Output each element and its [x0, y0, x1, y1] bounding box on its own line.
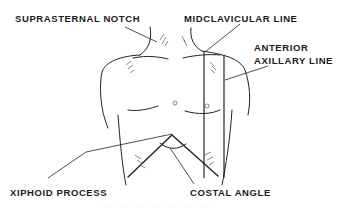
neck-left-outline: [140, 27, 151, 55]
leader-xiphoid-process: [48, 134, 172, 178]
label-xiphoid-process: XIPHOID PROCESS: [10, 187, 107, 198]
left-pectoral: [128, 106, 158, 111]
label-anterior-axillary-line-2: AXILLARY LINE: [254, 55, 333, 66]
caption-fragment: . . . . . . . . . . . . . . . . . . . . …: [100, 203, 215, 209]
left-flank: [118, 115, 126, 185]
right-costal-margin: [172, 135, 218, 176]
leader-midclavicular-line: [205, 24, 240, 52]
right-clavicle: [183, 55, 220, 58]
chest-illustration: [0, 0, 349, 211]
neck-right-outline: [191, 28, 202, 51]
label-costal-angle: COSTAL ANGLE: [190, 187, 271, 198]
left-shoulder-outline: [100, 55, 140, 128]
leader-anterior-axillary-line: [225, 66, 268, 80]
label-midclavicular-line: MIDCLAVICULAR LINE: [184, 13, 298, 24]
left-clavicle: [133, 56, 168, 59]
leader-costal-angle: [170, 148, 194, 184]
label-anterior-axillary-line-1: ANTERIOR: [254, 42, 308, 53]
right-pectoral: [185, 110, 220, 114]
left-costal-margin: [128, 135, 172, 177]
label-suprasternal-notch: SUPRASTERNAL NOTCH: [15, 13, 140, 24]
leader-suprasternal-notch: [125, 27, 157, 42]
